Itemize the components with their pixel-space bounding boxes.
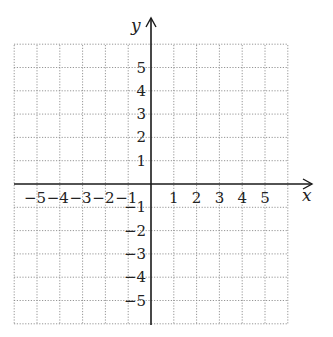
y-tick-label: −4	[124, 268, 146, 286]
y-tick-label: 2	[136, 128, 146, 146]
y-tick-label: 3	[136, 105, 146, 123]
y-tick-label: 5	[136, 59, 146, 77]
y-tick-label: −5	[124, 292, 146, 310]
y-tick-label: 4	[136, 82, 146, 100]
x-tick-label: −2	[92, 189, 114, 207]
y-tick-label: −2	[124, 222, 146, 240]
axes	[14, 18, 312, 325]
x-tick-label: −4	[47, 189, 69, 207]
x-axis-label: x	[302, 185, 312, 205]
x-tick-label: 5	[260, 189, 270, 207]
x-tick-label: 3	[215, 189, 225, 207]
y-tick-label: −1	[124, 198, 146, 216]
x-tick-label: −5	[24, 189, 46, 207]
x-tick-labels: −5−4−3−2−112345	[24, 189, 270, 207]
x-tick-label: 1	[169, 189, 179, 207]
y-tick-label: 1	[136, 152, 146, 170]
x-tick-label: −3	[70, 189, 92, 207]
x-tick-label: 4	[237, 189, 247, 207]
y-axis-label: y	[130, 15, 141, 35]
coordinate-plane: −5−4−3−2−112345 54321−1−2−3−4−5 x y	[0, 0, 333, 337]
x-tick-label: 2	[192, 189, 202, 207]
y-tick-label: −3	[124, 245, 146, 263]
